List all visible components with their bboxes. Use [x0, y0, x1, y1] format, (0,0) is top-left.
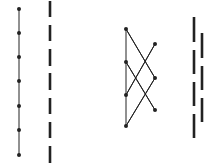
- chain-node: [17, 55, 21, 59]
- crown-right-node: [153, 76, 157, 80]
- chain-poset-figure: [17, 7, 21, 157]
- chain-node: [17, 128, 21, 132]
- crown-poset-figure: [124, 27, 157, 128]
- crown-left-node: [124, 60, 128, 64]
- crown-left-node: [124, 27, 128, 31]
- chain-node: [17, 104, 21, 108]
- chain-node: [17, 79, 21, 83]
- crown-edge: [126, 29, 155, 78]
- crown-right-node: [153, 42, 157, 46]
- diagram-canvas: [0, 0, 223, 166]
- chain-node: [17, 31, 21, 35]
- crown-right-node: [153, 108, 157, 112]
- crown-left-node: [124, 93, 128, 97]
- crown-left-node: [124, 124, 128, 128]
- interleaved-dashes-figure: [194, 17, 202, 138]
- chain-node: [17, 7, 21, 11]
- chain-node: [17, 153, 21, 157]
